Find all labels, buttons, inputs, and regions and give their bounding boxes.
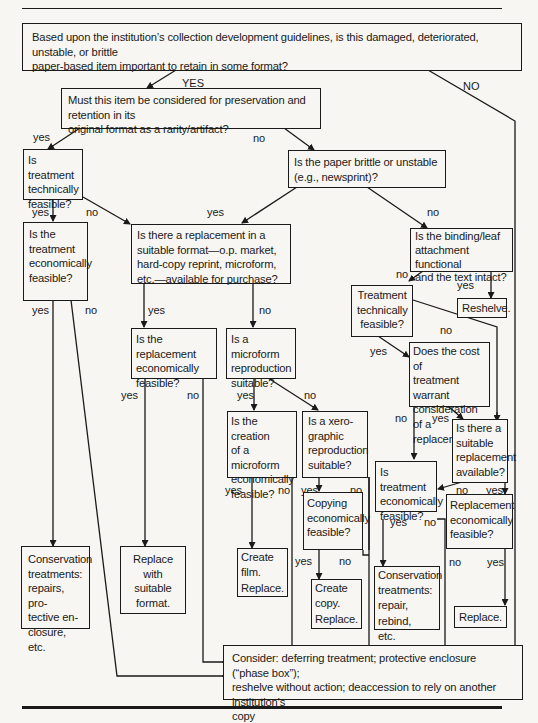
node-treatment-technically-feasible-2: Treatment technically feasible?: [351, 285, 413, 337]
node-treatment-technically-feasible: Is treatment technically feasible?: [23, 149, 83, 200]
node-important-to-retain: Based upon the institution’s collection …: [22, 23, 522, 71]
edge-label-replecon-yes: yes: [121, 389, 138, 401]
edge-label-tech2-no: no: [440, 324, 452, 336]
node-cost-warrant-replacement: Does the cost of treatment warrant consi…: [409, 342, 490, 407]
edge-label-brittle-no: no: [427, 206, 439, 218]
node-suitable-replacement-available: Is there a suitable replacement availabl…: [452, 419, 508, 483]
edge-label-micro-yes: yes: [237, 389, 254, 401]
edge-label-replecon-no: no: [187, 389, 199, 401]
node-copying-economically-feasible: Copying economically feasible?: [303, 492, 363, 550]
edge-label-tech-no: no: [86, 206, 98, 218]
node-create-film: Create film. Replace.: [237, 548, 288, 597]
edge-label-treat2-no: no: [424, 516, 436, 528]
edge-label-cost-no: no: [395, 412, 407, 424]
node-xerographic-suitable: Is a xero- graphic reproduction suitable…: [302, 411, 368, 478]
node-replace: Replace.: [454, 606, 507, 628]
node-replacement-economically-feasible-2: Replacement economically feasible?: [446, 494, 513, 549]
edge-label-top-no: NO: [463, 80, 480, 92]
edge-label-copy-yes: yes: [295, 555, 312, 567]
edge-label-brittle-yes: yes: [207, 206, 224, 218]
edge-label-micro-no: no: [304, 389, 316, 401]
edge-label-repl-yes: yes: [148, 304, 165, 316]
edge-label-binding-no: no: [396, 268, 408, 280]
edge-label-replecon2-yes: yes: [487, 556, 504, 568]
node-replacement-available: Is there a replacement in a suitable for…: [131, 224, 291, 284]
edge-label-tech2-yes: yes: [370, 345, 387, 357]
node-conservation-treatments-2: Conservation treatments: repair, rebind,…: [374, 566, 440, 630]
node-replace-with-suitable-format: Replace with suitable format.: [120, 546, 186, 614]
node-microform-suitable: Is a microform reproduction suitable?: [226, 328, 296, 379]
edge-label-econ-yes: yes: [32, 304, 49, 316]
edge-label-copy-no: no: [339, 555, 351, 567]
edge-label-econ-no: no: [85, 304, 97, 316]
node-replacement-economically-feasible: Is the replacement economically feasible…: [131, 328, 217, 379]
edge-label-replecon2-no: no: [449, 556, 461, 568]
node-create-copy: Create copy. Replace.: [311, 579, 362, 629]
edge-label-repl-no: no: [259, 304, 271, 316]
node-treatment-economically-feasible-2: Is treatment economically feasible?: [375, 461, 437, 512]
edge-label-orig-yes: yes: [33, 131, 50, 143]
node-conservation-treatments-1: Conservation treatments: repairs, pro- t…: [21, 546, 90, 629]
node-consider-alternatives: Consider: deferring treatment; protectiv…: [223, 645, 523, 700]
node-paper-brittle: Is the paper brittle or unstable (e.g., …: [288, 150, 446, 188]
node-reshelve: Reshelve.: [457, 298, 507, 318]
node-original-format: Must this item be considered for preserv…: [61, 88, 321, 129]
node-treatment-economically-feasible: Is the treatment economically feasible?: [23, 222, 88, 301]
node-binding-functional: Is the binding/leaf attachment functiona…: [410, 228, 513, 272]
node-microform-economically-feasible: Is the creation of a microform economica…: [227, 411, 297, 478]
edge-label-orig-no: no: [253, 132, 265, 144]
